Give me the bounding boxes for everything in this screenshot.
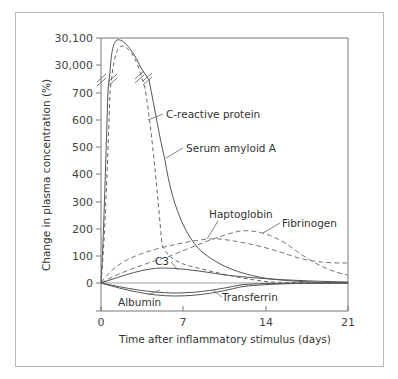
y-tick-label: 500 xyxy=(72,141,93,154)
series-c-reactive-protein xyxy=(101,46,348,283)
y-tick-labels: 30,100 30,000 700 600 500 400 300 200 10… xyxy=(55,32,94,290)
x-tick-label: 7 xyxy=(180,316,187,329)
y-tick-label: 600 xyxy=(72,114,93,127)
y-tick-label: 100 xyxy=(72,250,93,263)
label-c3: C3 xyxy=(155,255,169,267)
x-tick-label: 14 xyxy=(259,316,273,329)
label-c-reactive-protein: C-reactive protein xyxy=(166,108,260,120)
x-tick-labels: 0 7 14 21 xyxy=(98,316,356,329)
series-c3 xyxy=(101,268,348,283)
label-transferrin: Transferrin xyxy=(221,291,278,303)
x-tick-label: 0 xyxy=(98,316,105,329)
y-tick-label: 300 xyxy=(72,196,93,209)
x-tick-label: 21 xyxy=(341,316,355,329)
y-ticks xyxy=(96,38,101,283)
y-tick-label: 700 xyxy=(72,87,93,100)
y-tick-label: 0 xyxy=(86,277,93,290)
label-fibrinogen: Fibrinogen xyxy=(282,217,337,229)
x-axis-title: Time after inflammatory stimulus (days) xyxy=(118,333,331,345)
chart: 30,100 30,000 700 600 500 400 300 200 10… xyxy=(0,0,398,379)
y-tick-label: 30,000 xyxy=(55,59,94,72)
y-tick-label: 30,100 xyxy=(55,32,94,45)
y-axis-title: Change in plasma concentration (%) xyxy=(40,79,52,271)
label-haptoglobin: Haptoglobin xyxy=(209,208,273,220)
label-serum-amyloid-a: Serum amyloid A xyxy=(186,142,277,154)
label-albumin: Albumin xyxy=(118,296,161,308)
axis-break-marks xyxy=(97,71,152,86)
y-tick-label: 200 xyxy=(72,223,93,236)
y-tick-label: 400 xyxy=(72,168,93,181)
